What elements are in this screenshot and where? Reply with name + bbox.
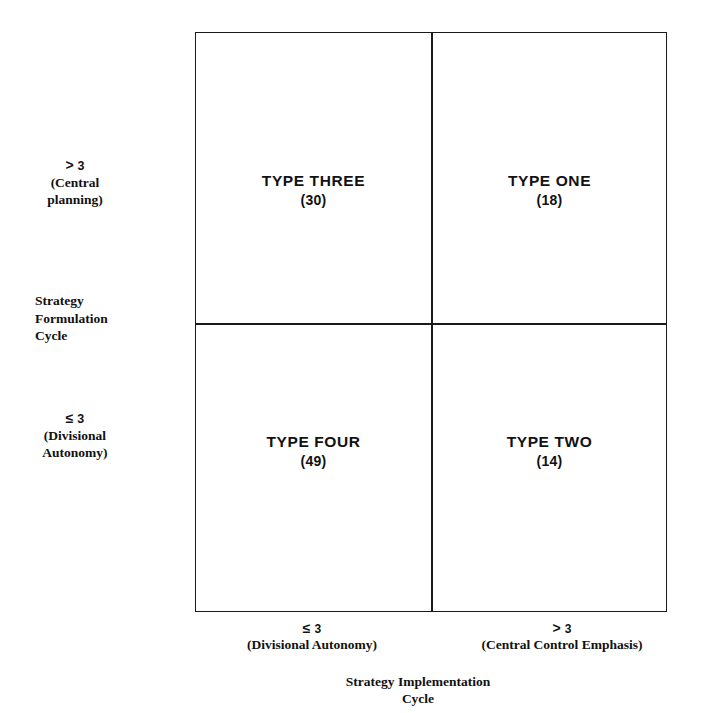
strategy-typology-matrix-figure: > 3 (Central planning) ≤ 3 (Divisional A…: [0, 0, 701, 713]
matrix-frame: TYPE THREE (30) TYPE ONE (18) TYPE FOUR …: [195, 32, 667, 612]
quadrant-bottom-left-title: TYPE FOUR: [266, 434, 360, 450]
y-axis-high-operator: > 3: [0, 157, 150, 174]
quadrant-bottom-right-title: TYPE TWO: [507, 434, 593, 450]
quadrant-top-left-title: TYPE THREE: [262, 173, 365, 189]
x-axis-right-operator: > 3: [432, 620, 692, 637]
y-axis-low-paren-line1: (Divisional: [0, 428, 150, 444]
y-axis-low-operator: ≤ 3: [0, 410, 150, 427]
y-axis-title-line3: Cycle: [35, 327, 108, 345]
quadrant-bottom-right: TYPE TWO (14): [432, 324, 667, 614]
y-axis-high-paren-line1: (Central: [0, 175, 150, 191]
y-axis-high-paren-line2: planning): [0, 192, 150, 208]
x-axis-tick-right: > 3 (Central Control Emphasis): [432, 620, 692, 653]
quadrant-bottom-left-count: (49): [300, 453, 326, 469]
quadrant-bottom-left: TYPE FOUR (49): [196, 324, 431, 614]
quadrant-top-right: TYPE ONE (18): [432, 33, 667, 323]
x-axis-title-line2: Cycle: [288, 690, 548, 707]
y-axis-low-paren-line2: Autonomy): [0, 445, 150, 461]
y-axis-tick-high: > 3 (Central planning): [0, 157, 150, 208]
y-axis-tick-low: ≤ 3 (Divisional Autonomy): [0, 410, 150, 461]
x-axis-title: Strategy Implementation Cycle: [288, 673, 548, 708]
y-axis-title-line2: Formulation: [35, 310, 108, 328]
x-axis-tick-left: ≤ 3 (Divisional Autonomy): [182, 620, 442, 653]
quadrant-top-right-count: (18): [536, 192, 562, 208]
y-axis-title: Strategy Formulation Cycle: [35, 292, 108, 345]
quadrant-bottom-right-count: (14): [536, 453, 562, 469]
quadrant-top-left: TYPE THREE (30): [196, 33, 431, 323]
y-axis-title-line1: Strategy: [35, 292, 108, 310]
x-axis-left-paren: (Divisional Autonomy): [182, 637, 442, 653]
x-axis-right-paren: (Central Control Emphasis): [432, 637, 692, 653]
quadrant-top-left-count: (30): [300, 192, 326, 208]
x-axis-title-line1: Strategy Implementation: [288, 673, 548, 690]
x-axis-left-operator: ≤ 3: [182, 620, 442, 637]
quadrant-top-right-title: TYPE ONE: [508, 173, 591, 189]
